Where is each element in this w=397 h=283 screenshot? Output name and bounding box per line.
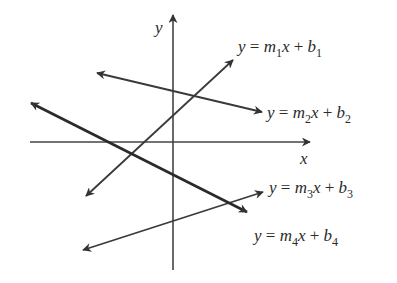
line-1	[86, 60, 233, 196]
x-axis-label: x	[299, 149, 308, 168]
equation-label-3: y = m3x + b3	[267, 178, 353, 201]
equation-label-4: y = m4x + b4	[252, 226, 338, 249]
line-2	[97, 73, 262, 112]
line-4	[31, 103, 247, 212]
diagram-canvas: y x y = m1x + b1 y = m2x + b2 y = m3x + …	[0, 0, 397, 283]
coordinate-plane: y x y = m1x + b1 y = m2x + b2 y = m3x + …	[0, 0, 397, 283]
equation-label-1: y = m1x + b1	[236, 37, 322, 60]
y-axis-label: y	[153, 18, 163, 37]
equation-label-2: y = m2x + b2	[265, 103, 351, 126]
